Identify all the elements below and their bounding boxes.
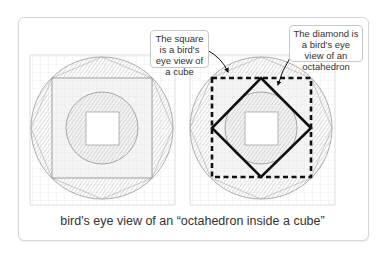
callout-diamond: The diamond is a bird's eye view of an o… xyxy=(289,25,363,62)
inner-square xyxy=(86,112,119,145)
right-sketch xyxy=(190,55,335,205)
figure-caption: bird's eye view of an “octahedron inside… xyxy=(18,214,367,228)
callout-square: The square is a bird's eye view of a cub… xyxy=(150,30,209,68)
left-sketch xyxy=(30,55,175,205)
